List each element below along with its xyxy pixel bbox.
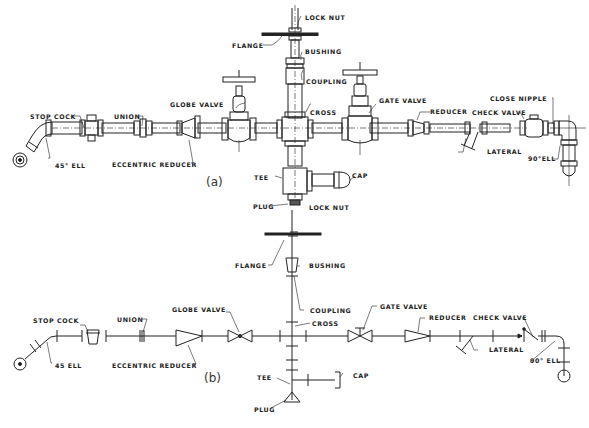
caption-b: (b) [204, 371, 221, 385]
vertical-column-b [265, 210, 340, 402]
label-a-lock-nut: LOCK NUT [305, 14, 345, 21]
leader-lines-b [47, 240, 555, 408]
label-b-bushing: BUSHING [309, 262, 346, 269]
label-a-cross: CROSS [310, 109, 337, 116]
main-line-b [25, 328, 570, 382]
schematic-drawing-b [0, 0, 589, 428]
label-b-globe-valve: GLOBE VALVE [172, 306, 226, 313]
label-a-tee: TEE [254, 174, 269, 181]
label-b-reducer: REDUCER [429, 314, 466, 321]
label-b-plug: PLUG [254, 406, 275, 413]
label-b-eccentric-reducer: ECCENTRIC REDUCER [112, 362, 197, 369]
label-b-90-ell: 90° ELL [530, 357, 561, 364]
label-a-lateral: LATERAL [487, 148, 522, 155]
label-a-union: UNION [114, 113, 140, 120]
label-a-flange: FLANGE [232, 42, 264, 49]
label-a-eccentric-reducer: ECCENTRIC REDUCER [112, 161, 197, 168]
label-a-cap: CAP [352, 172, 368, 179]
label-a-coupling: COUPLING [306, 78, 347, 85]
caption-a: (a) [206, 175, 223, 189]
label-b-stop-cock: STOP COCK [33, 317, 79, 324]
ell-end-45-b [14, 358, 26, 370]
label-b-gate-valve: GATE VALVE [380, 303, 428, 310]
label-b-union: UNION [117, 316, 143, 323]
label-a-close-nipple: CLOSE NIPPLE [490, 95, 547, 102]
label-b-check-valve: CHECK VALVE [473, 314, 527, 321]
label-a-globe-valve: GLOBE VALVE [170, 101, 224, 108]
label-a-gate-valve: GATE VALVE [379, 97, 427, 104]
label-a-45-ell: 45° ELL [55, 162, 86, 169]
label-a-check-valve: CHECK VALVE [472, 109, 526, 116]
label-a-90-ell: 90°ELL [528, 155, 556, 162]
label-a-reducer: REDUCER [430, 108, 467, 115]
label-a-stop-cock: STOP COCK [30, 113, 76, 120]
stop-cock-b [86, 330, 100, 344]
label-b-flange: FLANGE [235, 262, 267, 269]
label-a-bushing: BUSHING [305, 48, 342, 55]
label-b-cross: CROSS [312, 320, 339, 327]
label-b-coupling: COUPLING [310, 307, 351, 314]
label-b-cap: CAP [353, 372, 369, 379]
label-b-45-ell: 45 ELL [55, 362, 82, 369]
label-b-lateral: LATERAL [489, 346, 524, 353]
pipe-fittings-figure: LOCK NUT FLANGE BUSHING COUPLING GLOBE V… [0, 0, 589, 428]
label-b-lock-nut: LOCK NUT [309, 204, 349, 211]
label-a-plug: PLUG [253, 203, 274, 210]
label-b-tee: TEE [257, 374, 272, 381]
